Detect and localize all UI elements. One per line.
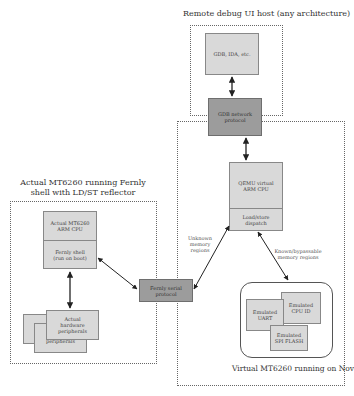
arrow-fernly-shell-serial bbox=[98, 258, 137, 289]
arrow-dispatch-fernly-serial bbox=[194, 226, 229, 289]
arrow-dispatch-emulated bbox=[258, 232, 288, 280]
arrows-layer bbox=[0, 0, 354, 396]
